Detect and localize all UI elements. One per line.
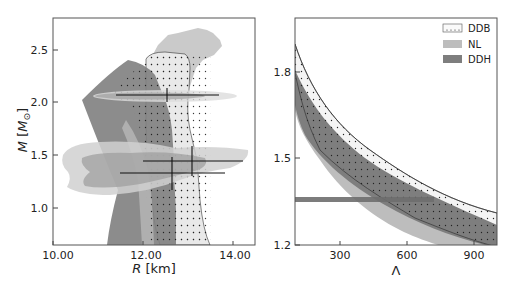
right-ytick-1.8: 1.8 — [274, 66, 292, 79]
right-xtick-900: 900 — [464, 249, 485, 262]
legend-swatch-nl — [443, 40, 462, 48]
legend-swatch-ddb — [443, 24, 462, 32]
left-plot-area — [62, 28, 248, 245]
left-ytick-1.5: 1.5 — [31, 149, 49, 162]
left-y-axis-label: M [M⊙] — [15, 108, 32, 152]
right-xtick-600: 600 — [397, 249, 418, 262]
right-plot-area — [295, 44, 497, 260]
contour-2.0-mid — [95, 93, 205, 100]
legend: DDB NL DDH — [443, 23, 491, 65]
horizontal-band — [295, 197, 434, 202]
legend-swatch-ddh — [443, 55, 462, 63]
figure: 2.5 2.0 1.5 1.0 10.00 12.00 14.00 R [km]… — [0, 0, 516, 291]
right-ytick-1.5: 1.5 — [274, 152, 292, 165]
left-ytick-2.0: 2.0 — [31, 96, 49, 109]
left-ytick-2.5: 2.5 — [31, 44, 49, 57]
left-x-axis-label: R [km] — [132, 261, 176, 276]
left-xtick-14: 14.00 — [219, 249, 251, 262]
right-panel: 1.8 1.5 1.2 300 600 900 Λ DDB NL DDH — [274, 18, 498, 278]
legend-label-ddb: DDB — [468, 23, 490, 34]
legend-label-nl: NL — [468, 39, 481, 50]
right-x-axis-label: Λ — [392, 263, 401, 278]
right-ytick-1.2: 1.2 — [274, 239, 292, 252]
left-panel: 2.5 2.0 1.5 1.0 10.00 12.00 14.00 R [km]… — [15, 18, 255, 276]
left-xtick-10: 10.00 — [42, 249, 74, 262]
left-ytick-1.0: 1.0 — [31, 202, 49, 215]
legend-label-ddh: DDH — [468, 54, 491, 65]
right-xtick-300: 300 — [330, 249, 351, 262]
left-y-ticks — [53, 50, 58, 208]
